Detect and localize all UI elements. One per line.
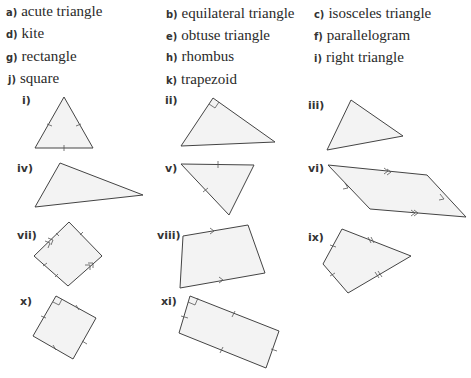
figure-iii-acute-triangle xyxy=(327,100,403,150)
figure-x-square xyxy=(33,296,96,359)
figure-xi-rectangle xyxy=(179,296,279,368)
figure-i-equilateral-triangle xyxy=(35,97,93,151)
figure-viii-trapezoid xyxy=(180,225,265,288)
figure-ii-right-triangle xyxy=(181,98,275,146)
figure-v-isosceles-triangle xyxy=(181,161,254,215)
figure-iv-obtuse-triangle xyxy=(35,163,143,207)
figures-canvas xyxy=(0,0,471,378)
figure-vii-rhombus xyxy=(34,222,102,286)
figure-ix-kite xyxy=(323,229,411,293)
figure-vi-parallelogram xyxy=(328,165,466,217)
